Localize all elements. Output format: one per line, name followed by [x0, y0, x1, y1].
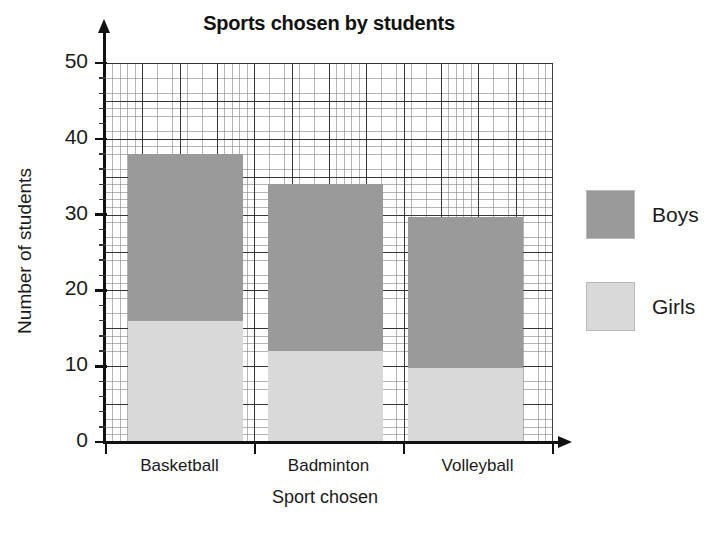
y-tick-major [95, 289, 107, 292]
x-category-label-badminton: Badminton [254, 456, 403, 476]
y-tick-major [95, 365, 107, 368]
y-tick-label: 50 [28, 49, 88, 73]
y-tick-minor [99, 168, 106, 169]
bar-segment-girls [268, 351, 383, 442]
y-tick-label: 10 [28, 352, 88, 376]
y-tick-minor [99, 123, 106, 124]
y-tick-label: 20 [28, 276, 88, 300]
legend-label-boys: Boys [652, 203, 699, 227]
y-tick-label: 40 [28, 125, 88, 149]
y-tick-minor [99, 244, 106, 245]
y-tick-minor [99, 411, 106, 412]
bar-segment-boys [408, 217, 523, 369]
x-axis-line [103, 441, 560, 444]
x-category-label-basketball: Basketball [105, 456, 254, 476]
legend-label-girls: Girls [652, 295, 695, 319]
y-axis-arrow-icon [98, 19, 110, 33]
x-axis-title: Sport chosen [180, 487, 470, 508]
bar-segment-girls [128, 321, 243, 442]
legend-swatch-girls [586, 282, 635, 331]
x-tick [254, 441, 256, 454]
y-tick-label: 0 [28, 428, 88, 452]
legend-item-boys: Boys [586, 190, 699, 239]
y-tick-major [95, 62, 107, 65]
y-tick-minor [99, 320, 106, 321]
y-tick-minor [99, 426, 106, 427]
y-tick-minor [99, 229, 106, 230]
y-tick-label: 30 [28, 201, 88, 225]
bar-basketball [128, 154, 243, 442]
x-tick [105, 441, 107, 454]
y-tick-minor [99, 259, 106, 260]
y-tick-minor [99, 108, 106, 109]
bar-badminton [268, 184, 383, 442]
y-tick-minor [99, 93, 106, 94]
y-tick-major [95, 213, 107, 216]
y-tick-minor [99, 335, 106, 336]
plot-area [105, 63, 553, 442]
x-tick [403, 441, 405, 454]
bar-volleyball [408, 217, 523, 442]
chart-canvas: Sports chosen by students 01020304050 Nu… [0, 0, 708, 536]
y-tick-major [95, 138, 107, 141]
legend-item-girls: Girls [586, 282, 695, 331]
y-tick-minor [99, 350, 106, 351]
y-tick-minor [99, 184, 106, 185]
y-tick-minor [99, 199, 106, 200]
x-category-label-volleyball: Volleyball [403, 456, 552, 476]
x-axis-arrow-icon [558, 436, 572, 448]
legend-swatch-boys [586, 190, 635, 239]
y-axis-title: Number of students [14, 131, 36, 371]
bar-segment-girls [408, 368, 523, 442]
y-tick-minor [99, 153, 106, 154]
y-tick-minor [99, 77, 106, 78]
y-tick-minor [99, 381, 106, 382]
x-tick [552, 441, 554, 454]
y-tick-minor [99, 305, 106, 306]
chart-title: Sports chosen by students [105, 12, 553, 35]
y-tick-minor [99, 396, 106, 397]
bar-segment-boys [268, 184, 383, 351]
y-tick-minor [99, 275, 106, 276]
bar-segment-boys [128, 154, 243, 321]
